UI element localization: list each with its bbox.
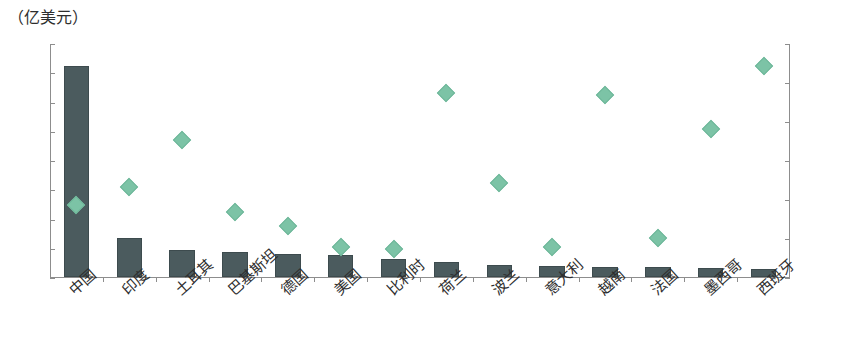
data-point-marker [226,203,244,221]
data-point-marker [754,57,772,75]
bar [64,66,89,277]
right-axis-tick [785,83,790,84]
left-axis-tick [50,220,55,221]
right-axis-tick [785,200,790,201]
left-axis-tick [50,103,55,104]
x-axis-tick [579,278,580,282]
data-point-marker [384,240,402,258]
x-axis-tick [737,278,738,282]
x-axis-tick [367,278,368,282]
x-axis-tick [209,278,210,282]
left-axis-tick [50,278,55,279]
data-point-marker [649,229,667,247]
data-point-marker [543,238,561,256]
x-axis-tick [473,278,474,282]
right-axis-tick [785,161,790,162]
x-axis-tick [156,278,157,282]
right-axis-tick [785,239,790,240]
left-axis-tick [50,44,55,45]
right-axis-tick [785,122,790,123]
data-point-marker [279,217,297,235]
x-axis-tick [261,278,262,282]
data-point-marker [332,238,350,256]
left-axis-tick [50,249,55,250]
chart-container: （亿美元） 400350300250200150100500 12%10%8%6… [0,0,852,358]
x-axis-tick [103,278,104,282]
data-point-marker [490,174,508,192]
x-axis-tick [314,278,315,282]
x-axis-tick [684,278,685,282]
right-axis-tick [785,44,790,45]
x-axis-tick [526,278,527,282]
data-point-marker [120,178,138,196]
y-axis-unit-caption: （亿美元） [8,4,88,28]
x-axis-tick [631,278,632,282]
left-axis-tick [50,190,55,191]
left-axis-tick [50,73,55,74]
data-point-marker [702,119,720,137]
data-point-marker [596,86,614,104]
data-point-marker [173,131,191,149]
left-axis-tick [50,132,55,133]
left-axis-tick [50,161,55,162]
plot-area: 400350300250200150100500 12%10%8%6%4%2%0 [50,44,790,278]
x-axis-tick [420,278,421,282]
data-point-marker [437,84,455,102]
